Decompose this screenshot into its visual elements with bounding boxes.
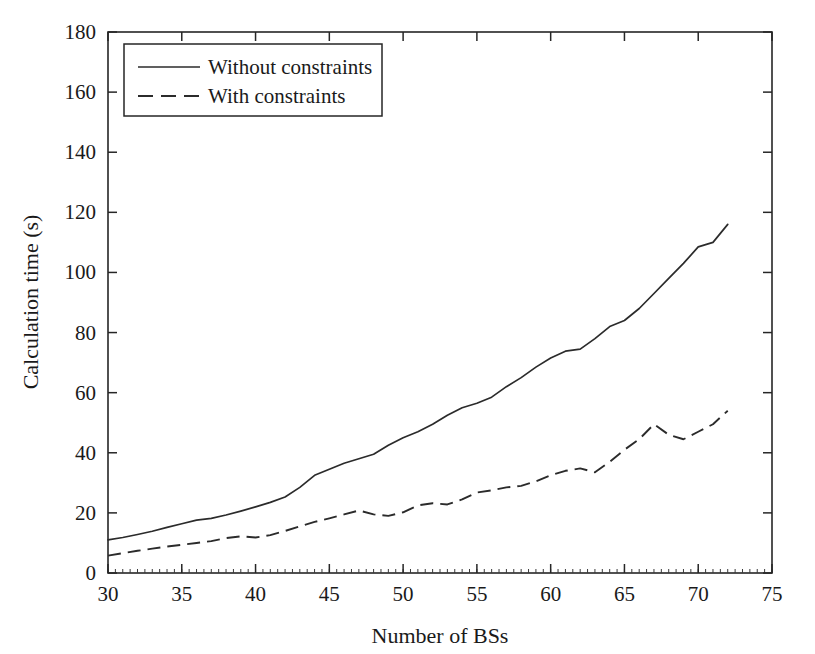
y-axis-tick-label: 180 [65, 20, 97, 44]
x-axis-tick-label: 75 [762, 582, 783, 606]
x-axis-tick-label: 55 [466, 582, 487, 606]
x-axis-tick-label: 65 [614, 582, 635, 606]
y-axis-tick-label: 100 [65, 260, 97, 284]
x-axis-tick-label: 35 [171, 582, 192, 606]
y-axis-title: Calculation time (s) [18, 215, 43, 390]
x-axis-tick-label: 70 [688, 582, 709, 606]
x-axis-tick-label: 60 [540, 582, 561, 606]
y-axis-tick-label: 120 [65, 200, 97, 224]
chart-canvas: 30354045505560657075 0204060801001201401… [0, 0, 815, 654]
legend: Without constraints With constraints [124, 44, 382, 116]
legend-label-with-constraints: With constraints [208, 84, 345, 108]
x-axis-tick-label: 45 [319, 582, 340, 606]
y-axis-tick-labels: 020406080100120140160180 [65, 20, 97, 585]
y-axis-tick-label: 0 [86, 561, 97, 585]
y-axis-tick-label: 40 [75, 441, 96, 465]
y-axis-tick-label: 160 [65, 80, 97, 104]
x-axis-tick-label: 40 [245, 582, 266, 606]
x-axis-tick-label: 50 [393, 582, 414, 606]
x-axis-title: Number of BSs [372, 623, 509, 648]
y-axis-tick-label: 140 [65, 140, 97, 164]
legend-label-without-constraints: Without constraints [208, 55, 372, 79]
y-axis-tick-label: 20 [75, 501, 96, 525]
y-axis-tick-label: 80 [75, 321, 96, 345]
y-axis-tick-label: 60 [75, 381, 96, 405]
x-axis-tick-label: 30 [98, 582, 119, 606]
x-axis-tick-labels: 30354045505560657075 [98, 582, 783, 606]
figure-container: 30354045505560657075 0204060801001201401… [0, 0, 815, 654]
series-line-without-constraints [108, 224, 728, 540]
